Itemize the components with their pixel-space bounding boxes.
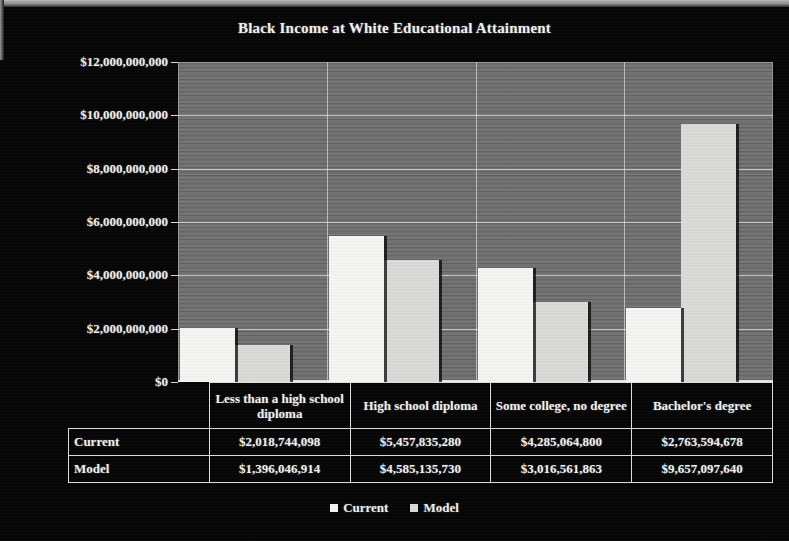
bar-model	[235, 345, 290, 382]
bar-model	[533, 302, 588, 382]
y-axis-tick-label: $10,000,000,000	[10, 107, 168, 123]
bar-current	[329, 236, 384, 382]
table-cell: $2,018,744,098	[209, 429, 350, 456]
table-cell: $3,016,561,863	[491, 456, 632, 483]
legend-item: Model	[410, 500, 458, 516]
bar-current	[478, 268, 533, 382]
y-axis-tick-mark	[171, 169, 178, 170]
y-axis-tick-label: $4,000,000,000	[10, 267, 168, 283]
category-separator	[476, 62, 477, 382]
y-axis-tick-mark	[171, 329, 178, 330]
legend-label: Current	[343, 500, 388, 516]
bar-current	[626, 308, 681, 382]
square-marker	[410, 504, 418, 512]
bar-current	[180, 328, 235, 382]
table-cell: $2,763,594,678	[632, 429, 773, 456]
y-axis-tick-label: $6,000,000,000	[10, 214, 168, 230]
square-marker	[330, 504, 338, 512]
table-row: Model$1,396,046,914$4,585,135,730$3,016,…	[69, 456, 773, 483]
y-axis-tick-mark	[171, 115, 178, 116]
table-column-header: Less than a high school diploma	[209, 383, 350, 429]
bar-model	[681, 124, 736, 382]
y-axis-tick-mark	[171, 275, 178, 276]
table-cell: $9,657,097,640	[632, 456, 773, 483]
legend-label: Model	[423, 500, 458, 516]
y-axis-tick-label: $8,000,000,000	[10, 161, 168, 177]
table-column-header: High school diploma	[350, 383, 491, 429]
table-cell: $4,585,135,730	[350, 456, 491, 483]
table-cell: $5,457,835,280	[350, 429, 491, 456]
chart-figure: Black Income at White Educational Attain…	[0, 0, 789, 541]
legend-item: Current	[330, 500, 388, 516]
table-row-header: Model	[69, 456, 210, 483]
y-axis-tick-label: $12,000,000,000	[10, 54, 168, 70]
chart-title: Black Income at White Educational Attain…	[0, 20, 789, 37]
data-table: Less than a high school diplomaHigh scho…	[68, 382, 773, 483]
y-axis-tick-label: $2,000,000,000	[10, 321, 168, 337]
y-axis-tick-mark	[171, 222, 178, 223]
table-column-header: Bachelor's degree	[632, 383, 773, 429]
category-separator	[327, 62, 328, 382]
plot-area	[178, 62, 773, 382]
table-cell: $4,285,064,800	[491, 429, 632, 456]
table-cell: $1,396,046,914	[209, 456, 350, 483]
table-row: Current$2,018,744,098$5,457,835,280$4,28…	[69, 429, 773, 456]
table-header-row: Less than a high school diplomaHigh scho…	[69, 383, 773, 429]
category-separator	[624, 62, 625, 382]
chart-legend: CurrentModel	[0, 500, 789, 516]
table-column-header: Some college, no degree	[491, 383, 632, 429]
y-axis-tick-mark	[171, 62, 178, 63]
table-corner-cell	[69, 383, 210, 429]
bar-model	[384, 260, 439, 382]
table-row-header: Current	[69, 429, 210, 456]
page-top-edge	[0, 0, 789, 7]
